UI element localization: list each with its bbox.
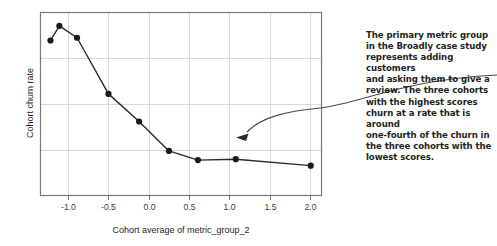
annotation-line: with the highest scores	[366, 97, 494, 108]
annotation-line: one-fourth of the churn in	[366, 130, 494, 141]
data-point	[308, 163, 314, 169]
x-tick-label: 1.0	[224, 202, 236, 212]
data-point	[166, 148, 172, 154]
chart-figure: -1.0-0.50.00.51.01.52.0 Cohort average o…	[0, 0, 497, 246]
x-axis-title: Cohort average of metric_group_2	[0, 225, 362, 235]
annotation-line: represents adding customers	[366, 52, 494, 74]
x-tick-label: 1.5	[265, 202, 277, 212]
annotation-line: The primary metric group	[366, 30, 494, 41]
data-point	[136, 118, 142, 124]
annotation-callout: The primary metric groupin the Broadly c…	[366, 30, 494, 163]
annotation-line: churn at a rate that is around	[366, 108, 494, 130]
data-point	[195, 157, 201, 163]
data-point	[47, 37, 53, 43]
annotation-line: the three cohorts with the	[366, 141, 494, 152]
annotation-line: review. The three cohorts	[366, 85, 494, 96]
data-point	[233, 156, 239, 162]
annotation-line: in the Broadly case study	[366, 41, 494, 52]
annotation-line: and asking them to give a	[366, 74, 494, 85]
x-tick-label: 0.5	[184, 202, 196, 212]
x-tick-label: 2.0	[305, 202, 317, 212]
data-point	[56, 23, 62, 29]
x-tick-label: -1.0	[61, 202, 76, 212]
annotation-line: lowest scores.	[366, 152, 494, 163]
x-tick-label: -0.5	[101, 202, 116, 212]
y-axis-title: Cohort churn rate	[25, 23, 35, 183]
x-axis-ticks	[69, 196, 311, 200]
data-point	[105, 91, 111, 97]
data-point	[74, 35, 80, 41]
x-tick-label: 0.0	[144, 202, 156, 212]
